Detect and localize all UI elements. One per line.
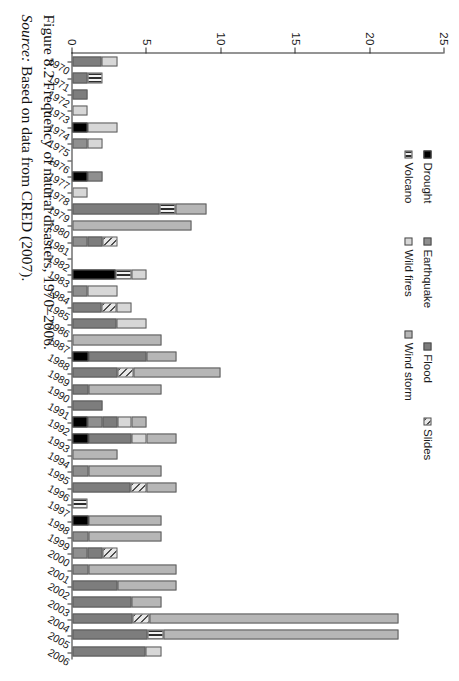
stacked-bar[interactable] [72,433,176,443]
stacked-bar[interactable] [72,629,398,639]
bar-segment-flood [72,400,102,410]
stacked-bar[interactable] [72,449,117,459]
stacked-bar[interactable] [72,547,117,557]
stacked-bar[interactable] [72,367,220,377]
stacked-bar[interactable] [72,646,161,656]
bar-slot [72,184,443,200]
bar-segment-windstorm [88,531,161,541]
category-tick-mark [67,176,71,177]
bar-slot [72,446,443,462]
caption-text: Frequency of natural disasters, 1970–200… [40,82,57,350]
bar-slot [72,512,443,528]
bar-slot [72,282,443,298]
bar-segment-drought [72,416,87,426]
category-tick-mark [67,439,71,440]
category-tick-mark [67,406,71,407]
bar-segment-windstorm [133,367,220,377]
category-tick-mark [67,504,71,505]
category-tick-mark [67,553,71,554]
bar-slot [72,151,443,167]
stacked-bar[interactable] [72,515,161,525]
bar-segment-earthquake [72,531,88,541]
bar-segment-flood [72,580,117,590]
bar-segment-earthquake [72,138,87,148]
bar-slot [72,217,443,233]
stacked-bar[interactable] [72,564,176,574]
bar-slot [72,331,443,347]
value-tick-label: 5 [140,38,152,45]
bar-segment-slides [130,482,146,492]
stacked-bar[interactable] [72,580,176,590]
value-tick [443,47,444,53]
category-tick-mark [67,586,71,587]
stacked-bar[interactable] [72,171,102,181]
bar-slot [72,528,443,544]
bar-slot [72,561,443,577]
bar-segment-windstorm [163,629,398,639]
stacked-bar[interactable] [72,482,176,492]
stacked-bar[interactable] [72,334,161,344]
stacked-bar[interactable] [72,384,161,394]
bar-segment-volcano [147,629,164,639]
stacked-bar[interactable] [72,596,161,606]
bar-segment-wildfires [72,187,87,197]
stacked-bar[interactable] [72,56,117,66]
value-tick [369,47,370,53]
category-tick-mark [67,652,71,653]
bar-series-container [72,53,443,659]
stacked-bar[interactable] [72,351,176,361]
bar-slot [72,69,443,85]
stacked-bar[interactable] [72,285,117,295]
stacked-bar[interactable] [72,105,87,115]
bar-slot [72,86,443,102]
bar-segment-earthquake [72,236,87,246]
category-tick-mark [67,127,71,128]
stacked-bar[interactable] [72,138,102,148]
stacked-bar[interactable] [72,465,161,475]
bar-segment-flood [87,236,102,246]
stacked-bar[interactable] [72,236,117,246]
bar-segment-windstorm [88,465,161,475]
source-text: Based on data from CRED (2007). [18,66,35,281]
category-tick-mark [67,307,71,308]
stacked-bar[interactable] [72,302,131,312]
stacked-bar[interactable] [72,269,146,279]
category-tick-label: 2006 [46,646,71,667]
stacked-bar[interactable] [72,613,398,623]
bar-segment-windstorm [117,580,176,590]
stacked-bar[interactable] [72,400,102,410]
category-tick-mark [67,324,71,325]
stacked-bar[interactable] [72,203,206,213]
category-tick-mark [67,61,71,62]
category-tick-mark [67,258,71,259]
bar-segment-volcano [115,269,131,279]
category-tick-mark [67,110,71,111]
bar-segment-wildfires [117,416,132,426]
category-tick-mark [67,143,71,144]
stacked-bar[interactable] [72,416,146,426]
bar-segment-flood [72,482,130,492]
bar-segment-wildfires [116,302,131,312]
bar-segment-drought [72,433,88,443]
stacked-bar[interactable] [72,122,117,132]
bar-slot [72,315,443,331]
category-tick-mark [67,603,71,604]
value-tick-label: 10 [214,32,226,45]
stacked-bar[interactable] [72,72,102,82]
stacked-bar[interactable] [72,89,87,99]
bar-slot [72,53,443,69]
stacked-bar[interactable] [72,498,87,508]
value-tick-label: 15 [288,32,300,45]
bar-segment-flood [88,351,146,361]
bar-segment-wildfires [145,646,161,656]
stacked-bar[interactable] [72,187,87,197]
bar-segment-earthquake [72,547,87,557]
stacked-bar[interactable] [72,220,191,230]
bar-segment-wildfires [131,433,147,443]
stacked-bar[interactable] [72,318,146,328]
category-tick-mark [67,340,71,341]
bar-slot [72,266,443,282]
bar-segment-earthquake [72,285,88,295]
bar-segment-slides [102,236,117,246]
stacked-bar[interactable] [72,531,161,541]
